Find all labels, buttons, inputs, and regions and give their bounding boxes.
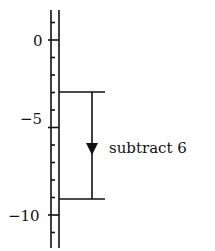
tick-label-minus-10: −10 [8, 207, 40, 225]
subtract-bracket [59, 92, 105, 199]
number-line-diagram: 0 −5 −10 subtract 6 [0, 0, 215, 251]
axis-ticks [48, 23, 59, 233]
tick-label-minus-5: −5 [20, 110, 42, 128]
bracket-label: subtract 6 [109, 139, 187, 157]
arrow-down-icon [86, 143, 98, 155]
tick-label-0: 0 [33, 32, 43, 50]
